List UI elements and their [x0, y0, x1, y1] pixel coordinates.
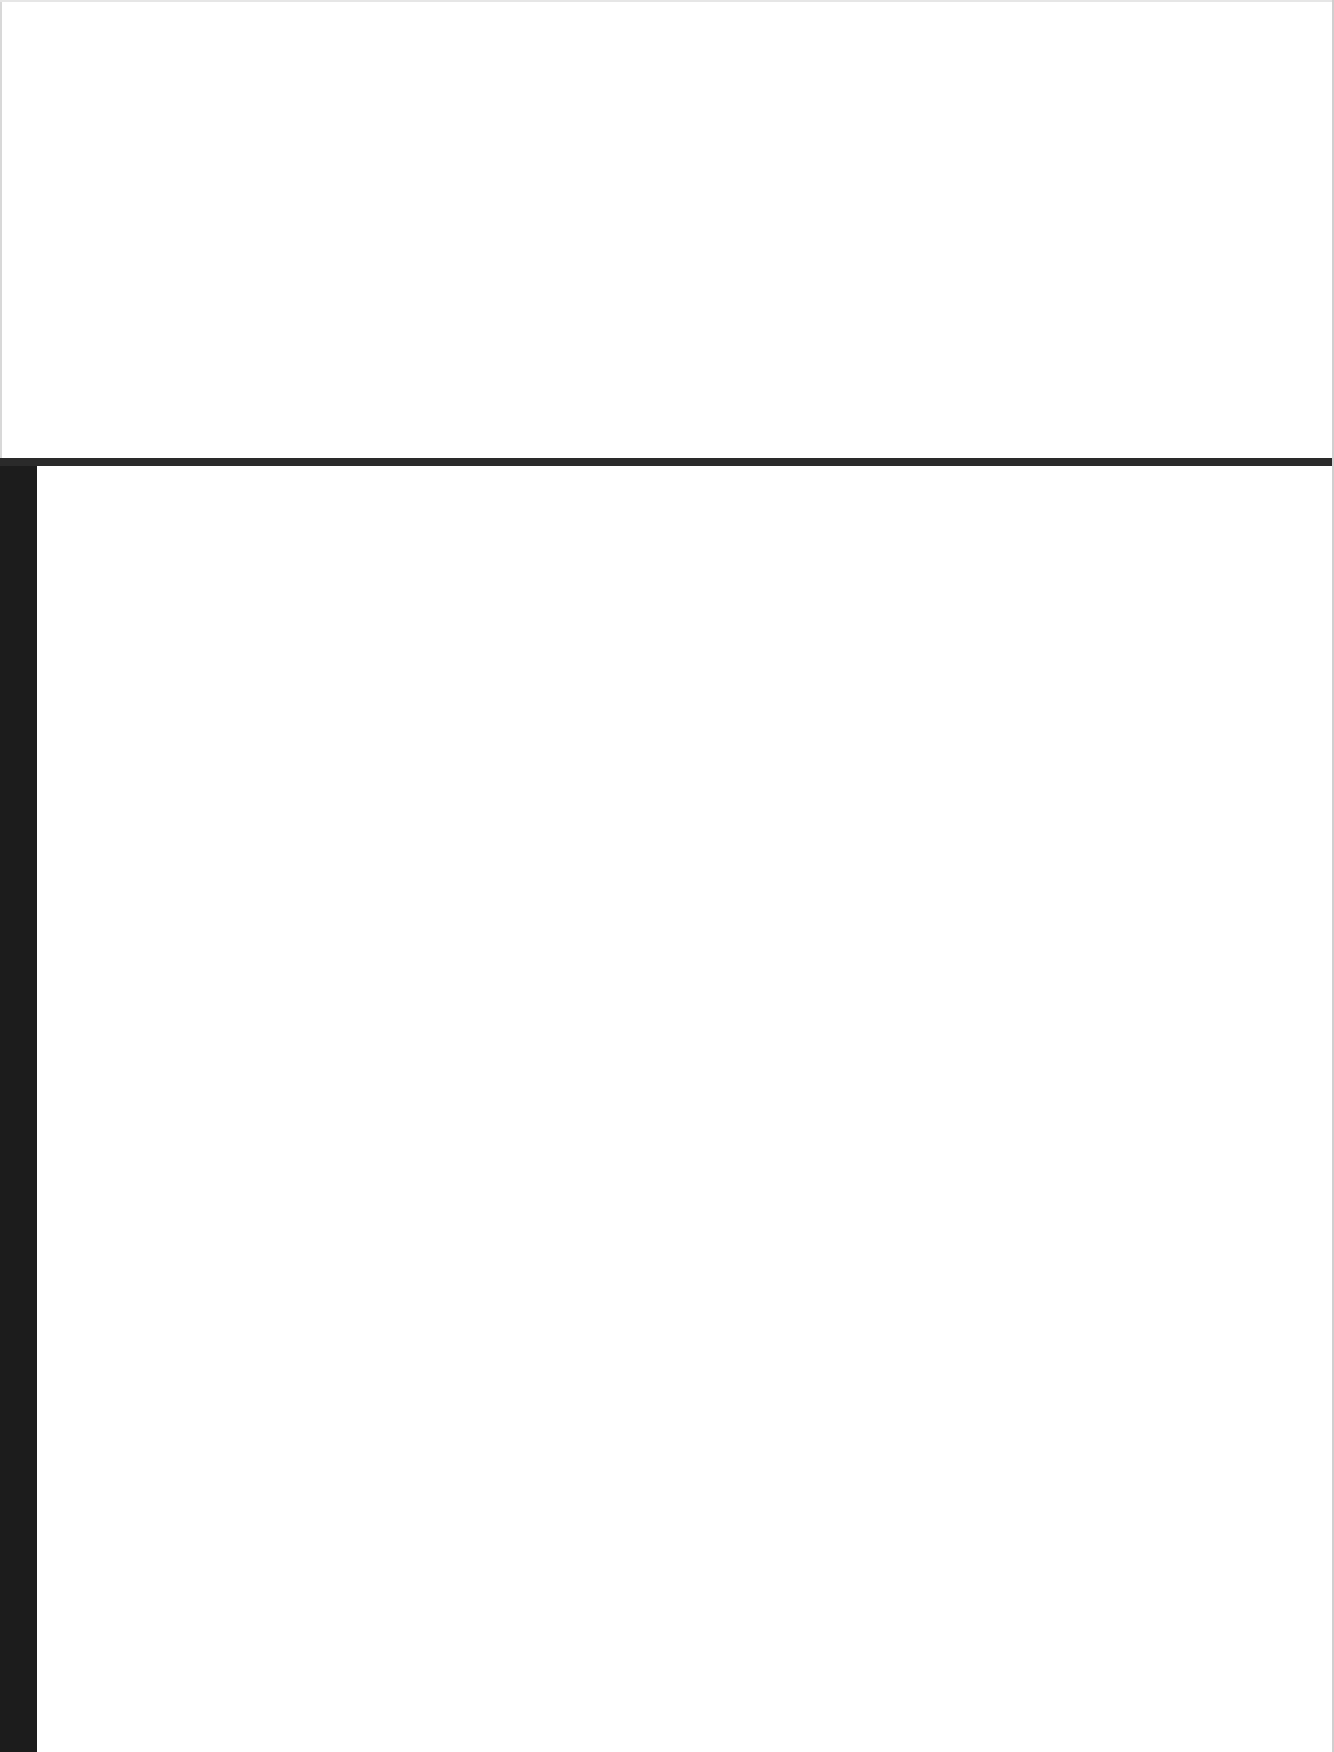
- left-sidebar-strip: [0, 466, 37, 1752]
- bottom-pane: [37, 466, 1332, 1752]
- top-edge-line: [0, 0, 1334, 2]
- top-pane: [0, 0, 1334, 458]
- screen: [0, 0, 1334, 1752]
- pane-divider[interactable]: [0, 458, 1334, 466]
